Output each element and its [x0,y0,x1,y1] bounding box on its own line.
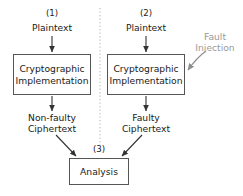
fault-injection-arrow [188,51,206,70]
step-tag-1: (1) [12,8,92,18]
fault-analysis-diagram: (1) (2) (3) Plaintext Cryptographic Impl… [0,0,243,196]
step-tag-3: (3) [69,144,129,154]
label-nonfaulty-ciphertext: Non-faulty Ciphertext [9,113,95,135]
analysis-box: Analysis [69,158,129,185]
label-plaintext-right: Plaintext [106,23,186,34]
step-tag-2: (2) [106,8,186,18]
label-plaintext-left: Plaintext [12,23,92,34]
fault-injection-label: Fault Injection [188,31,242,53]
crypto-implementation-box-left: Cryptographic Implementation [13,54,91,95]
crypto-implementation-box-right: Cryptographic Implementation [107,54,185,95]
label-faulty-ciphertext: Faulty Ciphertext [103,113,189,135]
